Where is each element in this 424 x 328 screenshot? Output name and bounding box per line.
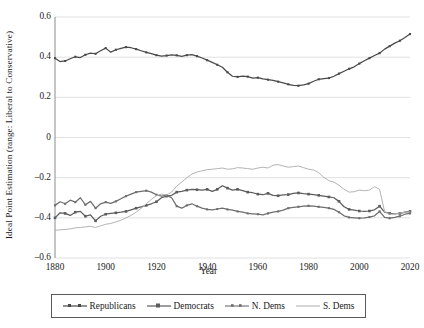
x-tick-label: 1920 — [136, 262, 176, 272]
series-marker — [267, 79, 269, 81]
series-marker — [115, 200, 117, 202]
series-marker — [348, 216, 350, 218]
series-marker — [54, 204, 56, 206]
series-marker — [308, 83, 310, 85]
x-tick-label: 1900 — [86, 262, 126, 272]
legend-swatch-republicans — [63, 302, 87, 310]
series-marker — [166, 55, 168, 57]
series-marker — [409, 212, 411, 214]
series-marker — [135, 207, 138, 210]
series-marker — [216, 208, 218, 210]
series-marker — [277, 210, 279, 212]
x-tick-label: 1960 — [238, 262, 278, 272]
series-marker — [64, 203, 66, 205]
x-tick-label: 2020 — [390, 262, 424, 272]
series-marker — [389, 217, 391, 219]
series-marker — [287, 193, 290, 196]
series-marker — [135, 48, 137, 50]
chart-legend: Republicans Democrats N. Dems S. Dems — [51, 294, 366, 318]
legend-item-s-dems[interactable]: S. Dems — [296, 301, 355, 311]
series-marker — [328, 207, 330, 209]
series-marker — [226, 187, 229, 190]
y-tick-label: 0.6 — [17, 11, 51, 21]
series-marker — [155, 200, 158, 203]
series-marker — [389, 45, 391, 47]
series-marker — [64, 212, 67, 215]
series-marker — [399, 215, 401, 217]
series-marker — [409, 33, 411, 35]
series-marker — [297, 192, 300, 195]
series-marker — [84, 215, 87, 218]
series-marker — [196, 188, 199, 191]
y-tick-label: –0.4 — [17, 212, 51, 222]
legend-label-s-dems: S. Dems — [323, 301, 355, 311]
series-marker — [186, 54, 188, 56]
series-marker — [206, 59, 208, 61]
series-marker — [125, 195, 127, 197]
series-marker — [338, 200, 341, 203]
series-marker — [287, 207, 289, 209]
series-marker — [379, 52, 381, 54]
series-marker — [368, 216, 370, 218]
series-marker — [247, 76, 249, 78]
series-marker — [54, 57, 56, 59]
legend-item-n-dems[interactable]: N. Dems — [225, 301, 285, 311]
legend-item-democrats[interactable]: Democrats — [147, 301, 214, 311]
series-marker — [236, 188, 239, 191]
legend-swatch-s-dems — [296, 302, 320, 310]
series-line-s-dems — [55, 165, 410, 231]
series-marker — [247, 212, 249, 214]
y-tick-label: 0.4 — [17, 51, 51, 61]
series-marker — [74, 56, 76, 58]
series-marker — [125, 46, 127, 48]
series-marker — [297, 85, 299, 87]
series-marker — [176, 205, 178, 207]
series-marker — [105, 201, 107, 203]
series-marker — [287, 83, 289, 85]
series-marker — [348, 208, 351, 211]
series-marker — [358, 210, 361, 213]
y-tick-label: –0.2 — [17, 172, 51, 182]
legend-swatch-democrats — [147, 302, 171, 310]
series-marker — [317, 194, 320, 197]
series-marker — [328, 196, 331, 199]
series-marker — [267, 192, 270, 195]
series-marker — [196, 205, 198, 207]
series-marker — [115, 212, 118, 215]
series-marker — [115, 49, 117, 51]
series-marker — [186, 204, 188, 206]
series-marker — [226, 71, 228, 73]
series-marker — [246, 191, 249, 194]
series-marker — [338, 211, 340, 213]
series-marker — [307, 193, 310, 196]
series-marker — [308, 205, 310, 207]
legend-swatch-n-dems — [225, 302, 249, 310]
legend-item-republicans[interactable]: Republicans — [63, 301, 136, 311]
series-marker — [338, 73, 340, 75]
series-marker — [206, 188, 209, 191]
y-tick-label: 0 — [17, 132, 51, 142]
series-line-republicans — [55, 34, 410, 86]
series-marker — [297, 206, 299, 208]
series-marker — [94, 220, 97, 223]
x-tick-label: 1940 — [187, 262, 227, 272]
series-marker — [64, 60, 66, 62]
series-marker — [379, 210, 381, 212]
series-marker — [257, 77, 259, 79]
legend-label-democrats: Democrats — [174, 301, 214, 311]
series-marker — [105, 47, 107, 49]
series-marker — [358, 217, 360, 219]
series-marker — [84, 204, 86, 206]
series-marker — [368, 57, 370, 59]
series-marker — [378, 205, 381, 208]
series-marker — [226, 208, 228, 210]
series-marker — [186, 189, 189, 192]
series-marker — [135, 191, 137, 193]
series-marker — [95, 53, 97, 55]
series-marker — [277, 194, 280, 197]
series-marker — [155, 54, 157, 56]
series-marker — [237, 76, 239, 78]
series-marker — [145, 51, 147, 53]
